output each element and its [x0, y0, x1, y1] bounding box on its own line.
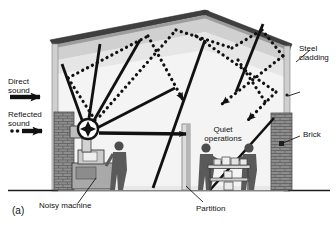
label-noisy-machine: Noisy machine	[39, 201, 91, 211]
partition-panel-shade	[186, 124, 190, 190]
steel-cladding-line1: Steel	[299, 44, 329, 53]
steel-cladding-line2: cladding	[299, 53, 329, 62]
bench-shelf-box-2	[224, 182, 233, 190]
worker-quiet-left-head	[201, 143, 210, 152]
brick-leader-dot	[279, 141, 284, 146]
reflected-sound-dot-2	[16, 129, 20, 133]
legend-direct-line2: sound	[8, 86, 30, 95]
bench-box-4	[240, 159, 247, 165]
legend-direct-sound-label: Direct sound	[8, 77, 30, 95]
brick-pier-left	[54, 112, 74, 190]
worker-quiet-left-body	[198, 154, 214, 190]
machine-base-panel	[76, 167, 96, 179]
figure-caption: (a)	[12, 205, 24, 216]
factory-sound-diagram: Direct sound Reflected sound Steel cladd…	[0, 0, 336, 227]
diagram-canvas	[0, 0, 336, 227]
legend-reflected-line2: sound	[8, 119, 42, 128]
label-partition: Partition	[196, 204, 225, 214]
label-brick: Brick	[303, 130, 321, 140]
brick-pier-right	[271, 113, 292, 190]
bench-top	[208, 165, 250, 168]
reflected-sound-dot-1	[10, 129, 14, 133]
legend-direct-line1: Direct	[8, 77, 30, 86]
machine-mid-panel	[83, 152, 97, 161]
bench-shelf	[209, 178, 249, 181]
worker-quiet-right-head	[244, 143, 253, 152]
bench-box-1	[222, 157, 230, 165]
legend-reflected-line1: Reflected	[8, 110, 42, 119]
quiet-operations-line1: Quiet	[196, 125, 250, 134]
label-steel-cladding: Steel cladding	[299, 44, 329, 62]
bench-box-2	[231, 158, 239, 165]
label-quiet-operations: Quiet operations	[196, 125, 250, 143]
legend-reflected-sound-label: Reflected sound	[8, 110, 42, 128]
worker-machine-head	[114, 141, 123, 150]
bench-shelf-box-1	[224, 171, 232, 178]
bench-box-3	[214, 159, 221, 165]
roof-ridge-cap	[202, 10, 210, 14]
quiet-operations-line2: operations	[196, 134, 250, 143]
